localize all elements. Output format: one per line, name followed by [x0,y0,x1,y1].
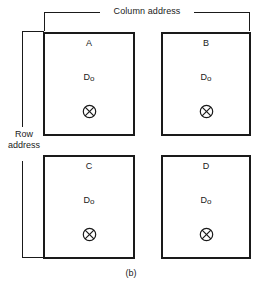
row-address-label-line1: Row [2,129,46,140]
cell-label-c: C [45,161,133,172]
row-address-bracket: Row address [22,31,44,258]
cell-value-c-subscript: o [90,197,94,206]
crossed-circle-icon-a [45,104,133,119]
figure-caption: (b) [0,267,262,279]
column-address-bracket: Column address [44,12,250,31]
memory-cell-c: C Do [43,155,135,259]
crossed-circle-icon-c [45,227,133,242]
cell-value-a: Do [45,72,133,83]
row-address-label: Row address [2,127,46,153]
cell-value-b-subscript: o [207,74,211,83]
cell-value-d: Do [163,195,249,206]
row-bracket-line-top [22,31,23,128]
column-address-label: Column address [44,5,250,17]
cell-value-d-subscript: o [207,197,211,206]
memory-cell-b: B Do [161,32,251,136]
row-bracket-tick-top [22,31,44,32]
row-bracket-tick-bottom [22,257,44,258]
cell-label-a: A [45,38,133,49]
figure-diagram: Column address Row address A Do B Do [0,0,262,282]
row-address-label-line2: address [2,140,46,151]
cell-value-c: Do [45,195,133,206]
row-bracket-line-bottom [22,161,23,258]
cell-value-a-subscript: o [90,74,94,83]
memory-cell-d: D Do [161,155,251,259]
cell-label-b: B [163,38,249,49]
cell-value-b: Do [163,72,249,83]
crossed-circle-icon-d [163,227,249,242]
crossed-circle-icon-b [163,104,249,119]
memory-cell-a: A Do [43,32,135,136]
cell-label-d: D [163,161,249,172]
